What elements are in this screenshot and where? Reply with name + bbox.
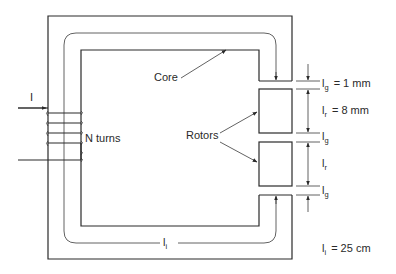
dim-label-lg-1: lg= 1 mm <box>322 77 371 92</box>
core-length-label: li= 25 cm <box>322 242 371 257</box>
diagram-canvas: li I N turns Core Rotors <box>0 0 396 274</box>
dim-label-lr-2: lr <box>322 157 327 172</box>
core-pointer-arrow <box>181 50 226 78</box>
core-label: Core <box>154 71 178 83</box>
rotor-bottom <box>259 142 292 186</box>
coil-windings <box>18 108 83 162</box>
rotor-pointer-arrow-top <box>220 112 257 133</box>
rotor-pointer-arrow-bottom <box>220 142 257 162</box>
path-length-label: li <box>163 236 167 251</box>
rotor-top <box>259 89 292 133</box>
dim-label-lr-1: lr= 8 mm <box>322 104 369 119</box>
dim-label-lg-3: lg <box>322 184 329 199</box>
dimension-lines <box>296 64 320 212</box>
coil-label: N turns <box>85 132 121 144</box>
rotors-label: Rotors <box>186 129 219 141</box>
magnetic-circuit-diagram: li I N turns Core Rotors <box>0 0 396 274</box>
dim-label-lg-2: lg <box>322 130 329 145</box>
current-label: I <box>30 91 33 103</box>
